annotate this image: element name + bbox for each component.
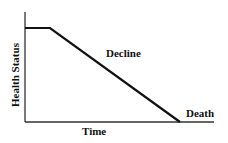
death-annotation: Death	[186, 108, 214, 119]
health-status-line	[25, 28, 180, 122]
health-trajectory-diagram	[0, 0, 228, 143]
x-axis-label: Time	[82, 126, 106, 137]
decline-annotation: Decline	[106, 48, 141, 59]
y-axis-label: Health Status	[10, 43, 21, 107]
